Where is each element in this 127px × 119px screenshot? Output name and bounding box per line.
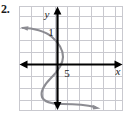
plot-background — [20, 7, 123, 111]
tick-label-x-5: 5 — [64, 67, 70, 79]
problem-number-label: 2. — [1, 2, 10, 16]
figure-screenshot: 2. — [0, 0, 127, 119]
graph-figure: y x 1 5 — [19, 6, 123, 111]
graph-svg: y x 1 5 — [19, 6, 123, 111]
x-axis-label: x — [115, 65, 121, 77]
y-axis-label: y — [44, 8, 50, 20]
tick-label-y-1: 1 — [48, 26, 54, 38]
